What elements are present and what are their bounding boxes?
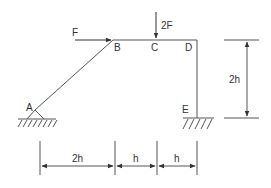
load-2f-label: 2F xyxy=(161,20,173,31)
pinned-support-a xyxy=(18,110,57,127)
frame-diagram: F 2F A B C D E 2h 2h h h xyxy=(0,0,271,188)
dim-span-ab-label: 2h xyxy=(72,153,83,164)
dim-height-label: 2h xyxy=(229,74,240,85)
node-c-label: C xyxy=(151,42,158,53)
node-b-label: B xyxy=(114,42,121,53)
node-a-label: A xyxy=(26,102,33,113)
dim-span-cd-label: h xyxy=(174,153,180,164)
load-f-label: F xyxy=(72,27,78,38)
node-e-label: E xyxy=(182,104,189,115)
member-ab xyxy=(35,40,113,110)
node-d-label: D xyxy=(185,42,192,53)
dim-span-bc-label: h xyxy=(133,153,139,164)
fixed-support-e xyxy=(183,118,214,129)
